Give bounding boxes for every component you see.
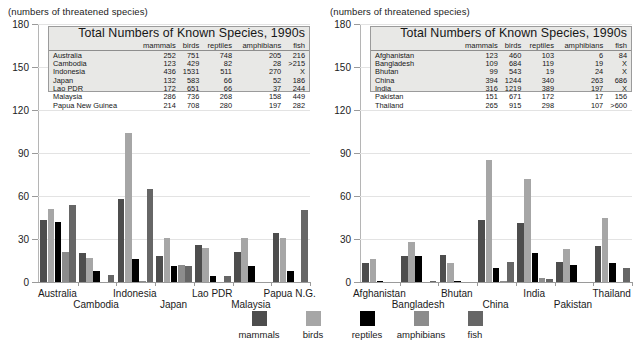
bar-birds bbox=[524, 179, 531, 282]
table-cell: >600 bbox=[607, 102, 631, 110]
bar-mammals bbox=[556, 262, 563, 282]
bar-mammals bbox=[401, 256, 408, 282]
left-table-title: Total Numbers of Known Species, 1990s bbox=[49, 27, 309, 41]
table-cell: 84 bbox=[607, 50, 631, 60]
table-cell: 280 bbox=[203, 102, 236, 110]
right-xtick bbox=[516, 282, 517, 286]
left-data-table: Total Numbers of Known Species, 1990s ma… bbox=[48, 26, 310, 92]
legend-label-mammals: mammals bbox=[238, 329, 279, 340]
left-chart-panel: (numbers of threatened species) 03060901… bbox=[0, 0, 321, 350]
left-category-label-indonesia: Indonesia bbox=[113, 288, 156, 299]
right-ytick-label-0: 0 bbox=[345, 277, 351, 288]
bar-reptiles bbox=[132, 259, 139, 282]
bar-mammals bbox=[234, 252, 241, 282]
left-gridline-0 bbox=[38, 282, 310, 283]
table-cell: 915 bbox=[502, 102, 526, 110]
chart-legend: mammalsbirdsreptilesamphibiansfish bbox=[232, 311, 502, 340]
right-ytick-150 bbox=[354, 67, 360, 68]
left-table-col-fish: fish bbox=[285, 41, 309, 51]
legend-item-amphibians: amphibians bbox=[394, 311, 448, 340]
bar-reptiles bbox=[171, 266, 178, 282]
left-ytick-60 bbox=[32, 196, 38, 197]
bar-reptiles bbox=[93, 271, 100, 282]
legend-label-amphibians: amphibians bbox=[397, 329, 446, 340]
bar-mammals bbox=[118, 199, 125, 282]
left-table-header-row: mammalsbirdsreptilesamphibiansfish bbox=[49, 41, 309, 51]
bar-mammals bbox=[40, 220, 47, 282]
bar-birds bbox=[486, 160, 493, 282]
bar-reptiles bbox=[248, 266, 255, 282]
right-category-label-bangladesh: Bangladesh bbox=[392, 299, 445, 310]
legend-label-fish: fish bbox=[468, 329, 483, 340]
right-table-col-amphibians: amphibians bbox=[558, 41, 607, 51]
bar-birds bbox=[164, 238, 171, 282]
right-xtick bbox=[477, 282, 478, 286]
right-ytick-120 bbox=[354, 110, 360, 111]
bar-amphibians bbox=[539, 278, 546, 282]
left-xtick bbox=[271, 282, 272, 286]
bar-fish bbox=[430, 281, 437, 282]
left-ytick-180 bbox=[32, 24, 38, 25]
left-table-col-reptiles: reptiles bbox=[203, 41, 236, 51]
right-ytick-90 bbox=[354, 153, 360, 154]
right-table-col-fish: fish bbox=[607, 41, 631, 51]
bar-birds bbox=[280, 238, 287, 282]
right-table-title: Total Numbers of Known Species, 1990s bbox=[371, 27, 631, 41]
right-category-label-bhutan: Bhutan bbox=[441, 288, 473, 299]
legend-swatch-mammals bbox=[252, 311, 267, 326]
left-xtick bbox=[310, 282, 311, 286]
left-table-col-blank bbox=[49, 41, 137, 51]
right-table-body: Afghanistan123460103684Bangladesh1096841… bbox=[371, 50, 631, 109]
right-ytick-60 bbox=[354, 196, 360, 197]
bar-fish bbox=[301, 210, 308, 282]
left-table-col-amphibians: amphibians bbox=[236, 41, 285, 51]
right-xtick bbox=[593, 282, 594, 286]
bar-birds bbox=[408, 242, 415, 282]
bar-fish bbox=[185, 266, 192, 282]
bar-fish bbox=[147, 189, 154, 282]
bar-reptiles bbox=[210, 276, 217, 282]
table-row: Indonesia4361531511270X bbox=[49, 68, 309, 76]
table-row: Bangladesh10968411919X bbox=[371, 60, 631, 68]
left-xtick bbox=[116, 282, 117, 286]
right-ytick-label-90: 90 bbox=[340, 148, 351, 159]
right-table-col-reptiles: reptiles bbox=[525, 41, 558, 51]
left-ytick-0 bbox=[32, 282, 38, 283]
bar-fish bbox=[507, 262, 514, 282]
bar-birds bbox=[602, 218, 609, 283]
bar-mammals bbox=[79, 253, 86, 282]
legend-item-reptiles: reptiles bbox=[340, 311, 394, 340]
left-ytick-label-90: 90 bbox=[18, 148, 29, 159]
bar-fish bbox=[546, 279, 553, 282]
left-table-col-birds: birds bbox=[180, 41, 204, 51]
left-ytick-label-60: 60 bbox=[18, 191, 29, 202]
bar-reptiles bbox=[570, 265, 577, 282]
left-category-label-papua-n-g-: Papua N.G. bbox=[264, 288, 316, 299]
table-cell: 686 bbox=[607, 77, 631, 85]
bar-birds bbox=[563, 249, 570, 282]
bar-fish bbox=[224, 276, 231, 282]
table-row-country: Thailand bbox=[371, 102, 459, 110]
bar-birds bbox=[241, 238, 248, 282]
table-cell: X bbox=[607, 60, 631, 68]
bar-reptiles bbox=[609, 263, 616, 282]
right-category-label-pakistan: Pakistan bbox=[554, 299, 592, 310]
legend-label-reptiles: reptiles bbox=[352, 329, 383, 340]
legend-swatch-reptiles bbox=[360, 311, 375, 326]
bar-mammals bbox=[362, 263, 369, 282]
table-cell: >215 bbox=[285, 60, 309, 68]
left-xtick bbox=[194, 282, 195, 286]
legend-swatch-birds bbox=[306, 311, 321, 326]
table-row: Australia252751748205216 bbox=[49, 50, 309, 60]
table-cell: 107 bbox=[558, 102, 607, 110]
right-table-header-row: mammalsbirdsreptilesamphibiansfish bbox=[371, 41, 631, 51]
bar-mammals bbox=[273, 233, 280, 282]
right-ytick-label-180: 180 bbox=[334, 19, 351, 30]
left-category-label-australia: Australia bbox=[38, 288, 77, 299]
right-data-table: Total Numbers of Known Species, 1990s ma… bbox=[370, 26, 632, 92]
legend-swatch-fish bbox=[468, 311, 483, 326]
bar-amphibians bbox=[62, 252, 69, 282]
bar-reptiles bbox=[415, 256, 422, 282]
legend-swatch-amphibians bbox=[414, 311, 429, 326]
table-row: Papua New Guinea214708280197282 bbox=[49, 102, 309, 110]
